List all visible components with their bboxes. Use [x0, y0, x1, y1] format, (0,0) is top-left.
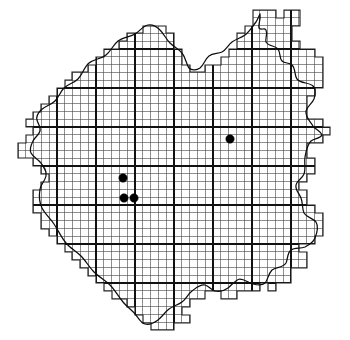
- record-dot: [120, 194, 128, 202]
- map-background: [0, 0, 350, 340]
- record-dot: [130, 194, 138, 202]
- record-dot: [119, 174, 127, 182]
- distribution-map-figure: [0, 0, 350, 340]
- record-dot: [226, 135, 234, 143]
- map-canvas: [0, 0, 350, 340]
